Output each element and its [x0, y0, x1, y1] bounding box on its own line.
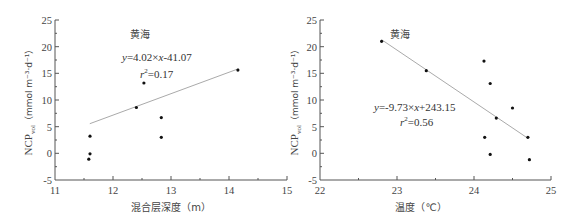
right-region-label: 黄海: [390, 28, 410, 40]
y-tick-label: 10: [42, 95, 53, 106]
svg-text:NCPvol（mmol m⁻³·d⁻¹）: NCPvol（mmol m⁻³·d⁻¹）: [22, 45, 37, 156]
y-tick-label: 15: [307, 68, 318, 79]
y-tick-label: 25: [42, 15, 53, 26]
x-tick-label: 23: [392, 185, 403, 196]
y-tick-label: 0: [312, 148, 317, 159]
y-tick-label: 0: [47, 148, 52, 159]
data-point: [88, 152, 91, 155]
left-equation: y=4.02×x-41.07: [121, 51, 192, 63]
left-points: [87, 69, 239, 161]
data-point: [87, 158, 90, 161]
x-tick-label: 24: [469, 185, 480, 196]
data-point: [482, 60, 485, 63]
data-point: [511, 106, 514, 109]
x-tick-label: 25: [546, 185, 557, 196]
y-tick-label: 5: [47, 122, 52, 133]
data-point: [380, 40, 383, 43]
right-x-ticks: [359, 176, 552, 180]
y-title-units: （mmol m⁻³·d⁻¹）: [290, 45, 300, 125]
data-point: [489, 82, 492, 85]
data-point: [526, 136, 529, 139]
left-chart: 25 20 15 10 5 0 -5 11 12 13 14 15 混合层深度（…: [22, 15, 292, 213]
left-region-label: 黄海: [130, 28, 150, 40]
left-y-tick-labels: 25 20 15 10 5 0 -5: [42, 15, 53, 186]
data-point: [88, 135, 91, 138]
x-tick-label: 14: [224, 185, 235, 196]
x-tick-label: 11: [50, 185, 60, 196]
left-x-ticks: [84, 176, 287, 180]
right-r2: r2=0.56: [400, 115, 434, 128]
data-point: [483, 136, 486, 139]
y-title-sub: vol: [295, 125, 303, 134]
data-point: [160, 136, 163, 139]
data-point: [495, 117, 498, 120]
data-point: [135, 106, 138, 109]
data-point: [528, 158, 531, 161]
y-title-main: NCP: [22, 134, 34, 155]
data-point: [425, 69, 428, 72]
left-x-axis-title: 混合层深度（m）: [131, 201, 211, 213]
right-y-axis-title: NCPvol（mmol m⁻³·d⁻¹）: [288, 45, 303, 156]
y-tick-label: 20: [307, 42, 318, 53]
right-chart: 25 20 15 10 5 0 -5 22 23 24 25 温度（℃） NCP…: [288, 15, 556, 213]
right-equation: y=-9.73×x+243.15: [373, 101, 456, 113]
right-y-ticks: [320, 20, 324, 167]
data-point: [236, 69, 239, 72]
y-tick-label: 10: [307, 95, 318, 106]
y-tick-label: 15: [42, 68, 53, 79]
right-x-axis-title: 温度（℃）: [395, 201, 446, 213]
x-tick-label: 22: [315, 185, 326, 196]
data-point: [142, 81, 145, 84]
y-title-units: （mmol m⁻³·d⁻¹）: [24, 45, 34, 125]
y-tick-label: 20: [42, 42, 53, 53]
left-y-axis-title: NCPvol（mmol m⁻³·d⁻¹）: [22, 45, 37, 156]
right-x-tick-labels: 22 23 24 25: [315, 185, 557, 196]
y-title-main: NCP: [288, 134, 300, 155]
y-tick-label: 25: [307, 15, 318, 26]
right-y-tick-labels: 25 20 15 10 5 0 -5: [307, 15, 318, 186]
left-r2: r2=0.17: [140, 67, 174, 80]
y-tick-label: 5: [312, 122, 317, 133]
data-point: [160, 116, 163, 119]
x-tick-label: 12: [108, 185, 119, 196]
y-title-sub: vol: [29, 125, 37, 134]
left-x-tick-labels: 11 12 13 14 15: [50, 185, 292, 196]
left-y-ticks: [55, 20, 59, 167]
svg-text:NCPvol（mmol m⁻³·d⁻¹）: NCPvol（mmol m⁻³·d⁻¹）: [288, 45, 303, 156]
x-tick-label: 13: [166, 185, 177, 196]
figure: 25 20 15 10 5 0 -5 11 12 13 14 15 混合层深度（…: [0, 0, 580, 222]
x-tick-label: 15: [282, 185, 293, 196]
data-point: [489, 153, 492, 156]
